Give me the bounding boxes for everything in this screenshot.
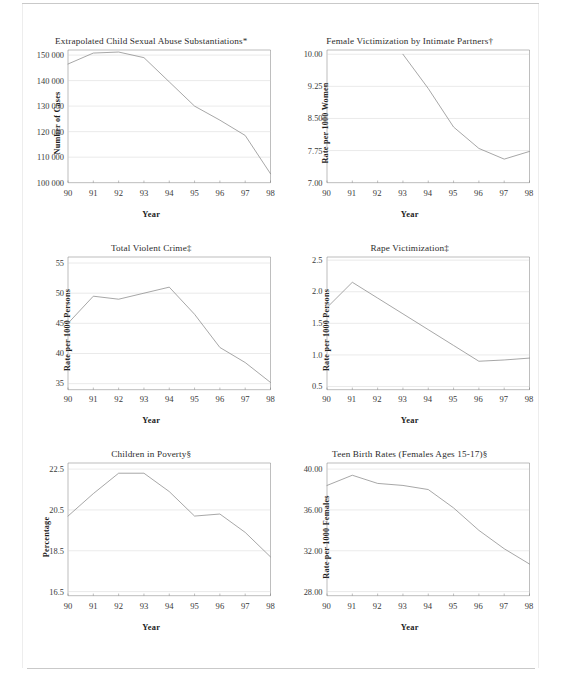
chart-panel-children-in-poverty: Children in Poverty§PercentageYear16.518… <box>22 433 281 640</box>
y-tick-label: 150 000 <box>37 51 64 60</box>
y-tick-label: 32.00 <box>304 547 323 556</box>
x-axis-label: Year <box>22 210 281 219</box>
chart-title: Female Victimization by Intimate Partner… <box>281 36 540 46</box>
page-top-rule <box>22 3 539 4</box>
plot-area: 16.518.520.522.5909192939495969798 <box>68 463 271 596</box>
chart-svg <box>327 257 530 390</box>
x-tick-label: 95 <box>190 601 199 611</box>
x-tick-label: 98 <box>525 394 534 404</box>
x-axis-label: Year <box>281 623 540 632</box>
x-tick-label: 96 <box>216 601 225 611</box>
x-tick-label: 97 <box>499 394 508 404</box>
x-tick-label: 93 <box>140 394 149 404</box>
x-tick-label: 91 <box>348 188 357 198</box>
x-tick-label: 97 <box>499 188 508 198</box>
y-tick-label: 1.0 <box>312 350 322 359</box>
x-tick-label: 91 <box>348 394 357 404</box>
x-tick-label: 96 <box>474 601 483 611</box>
plot-area: 3540455055909192939495969798 <box>68 257 271 390</box>
y-tick-label: 7.00 <box>308 178 323 187</box>
x-tick-label: 93 <box>398 188 407 198</box>
y-tick-label: 2.0 <box>312 287 322 296</box>
x-tick-label: 97 <box>241 188 250 198</box>
y-tick-label: 9.25 <box>308 82 323 91</box>
y-tick-label: 1.5 <box>312 318 322 327</box>
y-tick-label: 16.5 <box>49 587 64 596</box>
plot-area: 100 000110 000120 000130 000140 000150 0… <box>68 50 271 183</box>
x-tick-label: 93 <box>140 601 149 611</box>
x-tick-label: 94 <box>423 601 432 611</box>
x-tick-label: 98 <box>266 394 275 404</box>
y-tick-label: 2.5 <box>312 255 322 264</box>
x-tick-label: 97 <box>499 601 508 611</box>
chart-title: Children in Poverty§ <box>22 449 281 459</box>
x-tick-label: 93 <box>140 188 149 198</box>
x-tick-label: 90 <box>64 188 73 198</box>
x-tick-label: 93 <box>398 394 407 404</box>
x-tick-label: 91 <box>348 601 357 611</box>
y-tick-label: 110 000 <box>37 153 64 162</box>
x-tick-label: 96 <box>216 188 225 198</box>
x-tick-label: 94 <box>165 601 174 611</box>
page-bottom-rule <box>27 668 535 669</box>
data-series-line <box>327 282 530 361</box>
x-tick-label: 94 <box>165 188 174 198</box>
x-axis-label: Year <box>281 210 540 219</box>
chart-title: Total Violent Crime‡ <box>22 243 281 253</box>
plot-frame <box>68 463 271 596</box>
chart-grid: Extrapolated Child Sexual Abuse Substant… <box>22 20 539 640</box>
x-tick-label: 96 <box>474 188 483 198</box>
plot-frame <box>327 50 530 183</box>
y-tick-label: 22.5 <box>49 465 64 474</box>
chart-title: Rape Victimization‡ <box>281 243 540 253</box>
x-tick-label: 92 <box>373 188 382 198</box>
plot-area: 28.0032.0036.0040.00909192939495969798 <box>327 463 530 596</box>
plot-area: 0.51.01.52.02.5909192939495969798 <box>327 257 530 390</box>
chart-svg <box>327 463 530 596</box>
chart-svg <box>327 50 530 183</box>
x-tick-label: 92 <box>373 394 382 404</box>
x-tick-label: 97 <box>241 601 250 611</box>
x-tick-label: 93 <box>398 601 407 611</box>
document-page: Extrapolated Child Sexual Abuse Substant… <box>0 0 561 679</box>
y-tick-label: 0.5 <box>312 382 322 391</box>
chart-title: Teen Birth Rates (Females Ages 15-17)§ <box>281 449 540 459</box>
y-tick-label: 36.00 <box>304 506 323 515</box>
chart-svg <box>68 463 271 596</box>
x-tick-label: 90 <box>64 394 73 404</box>
x-tick-label: 95 <box>449 601 458 611</box>
x-tick-label: 92 <box>114 394 123 404</box>
x-tick-label: 95 <box>190 394 199 404</box>
chart-panel-rape-victimization: Rape Victimization‡Rate per 1000 Persons… <box>281 227 540 434</box>
y-tick-label: 50 <box>56 288 64 297</box>
x-tick-label: 96 <box>216 394 225 404</box>
y-tick-label: 35 <box>56 379 64 388</box>
data-series-line <box>402 54 529 159</box>
x-tick-label: 91 <box>89 188 98 198</box>
x-axis-label: Year <box>281 416 540 425</box>
plot-area: 7.007.758.509.2510.00909192939495969798 <box>327 50 530 183</box>
y-tick-label: 55 <box>56 258 64 267</box>
x-tick-label: 90 <box>322 188 331 198</box>
y-tick-label: 20.5 <box>49 506 64 515</box>
x-tick-label: 96 <box>474 394 483 404</box>
x-tick-label: 97 <box>241 394 250 404</box>
chart-svg <box>68 50 271 183</box>
plot-frame <box>327 463 530 596</box>
x-tick-label: 95 <box>190 188 199 198</box>
chart-panel-teen-birth-rates: Teen Birth Rates (Females Ages 15-17)§Ra… <box>281 433 540 640</box>
x-tick-label: 98 <box>266 188 275 198</box>
x-tick-label: 98 <box>525 188 534 198</box>
y-tick-label: 18.5 <box>49 547 64 556</box>
y-tick-label: 28.00 <box>304 587 323 596</box>
chart-panel-female-victimization-by-intimate-partners: Female Victimization by Intimate Partner… <box>281 20 540 227</box>
chart-svg <box>68 257 271 390</box>
x-tick-label: 95 <box>449 394 458 404</box>
chart-panel-extrapolated-child-sexual-abuse-substantiations: Extrapolated Child Sexual Abuse Substant… <box>22 20 281 227</box>
y-tick-label: 140 000 <box>37 76 64 85</box>
y-tick-label: 40.00 <box>304 465 323 474</box>
y-tick-label: 130 000 <box>37 102 64 111</box>
y-tick-label: 8.50 <box>308 114 323 123</box>
y-tick-label: 10.00 <box>304 50 323 59</box>
x-axis-label: Year <box>22 623 281 632</box>
